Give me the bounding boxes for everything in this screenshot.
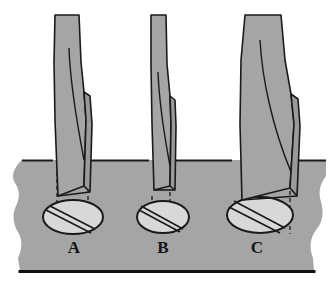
tool-label-a: A <box>68 238 81 257</box>
chisel-b-side-face <box>170 96 176 190</box>
chisel-c-body <box>240 15 294 200</box>
diagram-root: A B C <box>0 0 336 288</box>
tool-label-c: C <box>251 238 263 257</box>
chisel-b <box>151 15 176 190</box>
chisel-a <box>54 15 92 196</box>
cut-footprint-a <box>43 200 103 234</box>
chisel-a-side-face <box>84 92 92 192</box>
cut-footprint-b <box>137 201 189 233</box>
chisel-c <box>240 15 300 200</box>
tool-label-b: B <box>157 238 168 257</box>
cut-footprint-c <box>227 197 293 233</box>
chisel-a-body <box>54 15 86 196</box>
chisel-comparison-figure: A B C <box>0 0 336 288</box>
